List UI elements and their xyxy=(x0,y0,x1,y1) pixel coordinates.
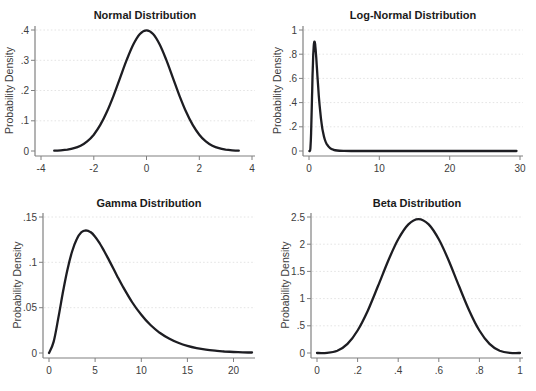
density-curve xyxy=(317,219,520,353)
chart-title: Normal Distribution xyxy=(94,9,197,21)
y-axis-title: Probability Density xyxy=(11,241,23,329)
chart-beta-distribution: 0.511.522.50.2.4.6.81Beta DistributionPr… xyxy=(268,195,536,391)
x-tick-label: 2 xyxy=(197,163,203,174)
chart-title: Log-Normal Distribution xyxy=(350,9,477,21)
chart-normal-distribution: 0.1.2.3.4-4-2024Normal DistributionProba… xyxy=(0,0,268,195)
y-tick-label: .8 xyxy=(289,49,298,60)
chart-title: Gamma Distribution xyxy=(96,197,201,209)
x-tick-label: 15 xyxy=(182,365,194,376)
y-axis-title: Probability Density xyxy=(3,46,15,134)
x-tick-label: .8 xyxy=(475,365,484,376)
chart-log-normal-distribution: 0.2.4.6.810102030Log-Normal Distribution… xyxy=(268,0,536,195)
y-tick-label: 1.5 xyxy=(291,266,305,277)
chart-title: Beta Distribution xyxy=(373,197,462,209)
x-tick-label: .6 xyxy=(435,365,444,376)
y-tick-label: 0 xyxy=(23,146,29,157)
y-tick-label: .4 xyxy=(21,25,30,36)
chart-gamma-distribution: 0.05.1.1505101520Gamma DistributionProba… xyxy=(0,195,268,391)
x-tick-label: .4 xyxy=(394,365,403,376)
x-tick-label: 10 xyxy=(374,163,386,174)
y-tick-label: .5 xyxy=(297,320,306,331)
y-tick-label: 1 xyxy=(291,25,297,36)
x-tick-label: 5 xyxy=(92,365,98,376)
y-tick-label: 2 xyxy=(299,239,305,250)
x-tick-label: 0 xyxy=(46,365,52,376)
y-tick-label: 0 xyxy=(299,348,305,359)
x-tick-label: 0 xyxy=(144,163,150,174)
y-tick-label: .1 xyxy=(29,257,38,268)
y-tick-label: 2.5 xyxy=(291,212,305,223)
x-tick-label: 0 xyxy=(306,163,312,174)
density-curve xyxy=(309,42,516,152)
x-tick-label: 10 xyxy=(136,365,148,376)
y-tick-label: .1 xyxy=(21,115,30,126)
y-tick-label: .6 xyxy=(289,73,298,84)
y-tick-label: .2 xyxy=(21,85,30,96)
beta-distribution-plot: 0.511.522.50.2.4.6.81Beta DistributionPr… xyxy=(268,195,536,391)
x-tick-label: 20 xyxy=(228,365,240,376)
y-tick-label: .05 xyxy=(23,302,37,313)
y-axis-title: Probability Density xyxy=(271,46,283,134)
log-normal-distribution-plot: 0.2.4.6.810102030Log-Normal Distribution… xyxy=(268,0,536,195)
x-tick-label: 20 xyxy=(444,163,456,174)
x-tick-label: -4 xyxy=(37,163,46,174)
y-tick-label: 0 xyxy=(291,146,297,157)
y-tick-label: .4 xyxy=(289,97,298,108)
y-tick-label: .15 xyxy=(23,212,37,223)
y-tick-label: 1 xyxy=(299,293,305,304)
density-curve xyxy=(49,230,252,353)
normal-distribution-plot: 0.1.2.3.4-4-2024Normal DistributionProba… xyxy=(0,0,268,195)
x-tick-label: 4 xyxy=(249,163,255,174)
x-tick-label: 1 xyxy=(517,365,523,376)
gamma-distribution-plot: 0.05.1.1505101520Gamma DistributionProba… xyxy=(0,195,268,391)
x-tick-label: .2 xyxy=(353,365,362,376)
y-tick-label: 0 xyxy=(31,348,37,359)
distribution-charts-grid: 0.1.2.3.4-4-2024Normal DistributionProba… xyxy=(0,0,536,391)
y-axis-title: Probability Density xyxy=(279,241,291,329)
y-tick-label: .2 xyxy=(289,121,298,132)
x-tick-label: 0 xyxy=(314,365,320,376)
x-tick-label: 30 xyxy=(514,163,526,174)
y-tick-label: .3 xyxy=(21,55,30,66)
x-tick-label: -2 xyxy=(89,163,98,174)
